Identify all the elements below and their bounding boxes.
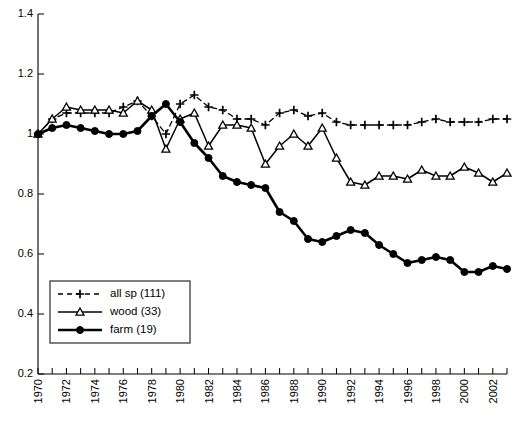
- data-point-marker-plus: [446, 118, 454, 126]
- data-point-marker-plus: [389, 121, 397, 129]
- data-point-marker-circle: [347, 227, 354, 234]
- x-tick-label: 1976: [117, 379, 129, 403]
- data-point-marker-circle: [148, 113, 155, 120]
- data-point-marker-plus: [489, 115, 497, 123]
- data-point-marker-plus: [460, 118, 468, 126]
- data-point-marker-circle: [205, 155, 212, 162]
- data-point-marker-triangle: [489, 178, 497, 185]
- chart-canvas: 0.20.40.60.811.21.4 19701972197419761978…: [0, 0, 514, 422]
- data-point-marker-triangle: [162, 145, 170, 152]
- y-tick-label: 0.4: [18, 307, 33, 319]
- data-point-marker-plus: [304, 112, 312, 120]
- y-tick-label: 0.8: [18, 187, 33, 199]
- x-tick-label: 1984: [231, 379, 243, 403]
- data-point-marker-plus: [432, 115, 440, 123]
- x-tick-label: 1982: [203, 379, 215, 403]
- data-point-marker-plus: [247, 115, 255, 123]
- data-point-marker-circle: [191, 140, 198, 147]
- data-point-marker-circle: [77, 125, 84, 132]
- data-point-marker-plus: [318, 109, 326, 117]
- x-tick-label: 1974: [89, 379, 101, 403]
- x-tick-label: 1972: [60, 379, 72, 403]
- data-point-marker-circle: [134, 128, 141, 135]
- data-point-marker-plus: [219, 106, 227, 114]
- y-tick-label: 1: [27, 127, 33, 139]
- data-point-marker-plus: [474, 118, 482, 126]
- data-point-marker-plus: [332, 118, 340, 126]
- data-point-marker-circle: [404, 260, 411, 267]
- data-point-marker-circle: [333, 233, 340, 240]
- chart-legend: all sp (111)wood (33)farm (19): [50, 281, 190, 343]
- data-point-marker-circle: [35, 131, 42, 138]
- data-point-marker-circle: [475, 269, 482, 276]
- data-point-marker-plus: [290, 106, 298, 114]
- y-tick-label: 1.4: [18, 7, 33, 19]
- data-point-marker-plus: [176, 100, 184, 108]
- x-tick-label: 2002: [487, 379, 499, 403]
- x-tick-label: 2000: [458, 379, 470, 403]
- x-tick-label: 1990: [316, 379, 328, 403]
- data-point-marker-circle: [162, 101, 169, 108]
- data-point-marker-triangle: [318, 124, 326, 131]
- data-point-marker-circle: [504, 266, 511, 273]
- data-point-marker-circle: [276, 209, 283, 216]
- data-point-marker-circle: [177, 119, 184, 126]
- x-tick-label: 1986: [259, 379, 271, 403]
- data-point-marker-circle: [63, 122, 70, 129]
- legend-label: farm (19): [110, 323, 157, 335]
- data-point-marker-circle: [219, 173, 226, 180]
- data-point-marker-circle: [376, 242, 383, 249]
- x-axis-tick-marks: [38, 368, 507, 374]
- y-tick-label: 1.2: [18, 67, 33, 79]
- data-point-marker-plus: [403, 121, 411, 129]
- data-point-marker-triangle: [332, 154, 340, 161]
- data-point-marker-circle: [262, 185, 269, 192]
- data-point-marker-circle: [447, 257, 454, 264]
- data-point-marker-triangle: [460, 163, 468, 170]
- x-axis-tick-labels: 1970197219741976197819801982198419861988…: [32, 379, 499, 403]
- data-point-marker-triangle: [503, 169, 511, 176]
- y-tick-label: 0.2: [18, 367, 33, 379]
- data-point-marker-circle: [77, 327, 84, 334]
- legend-label: all sp (111): [110, 287, 165, 299]
- x-tick-label: 1988: [288, 379, 300, 403]
- x-tick-label: 1998: [430, 379, 442, 403]
- data-point-marker-circle: [91, 128, 98, 135]
- data-point-marker-circle: [319, 239, 326, 246]
- data-point-marker-circle: [432, 254, 439, 261]
- series-wood-33-: [34, 97, 511, 188]
- data-point-marker-circle: [489, 263, 496, 270]
- data-point-marker-triangle: [62, 103, 70, 110]
- y-tick-label: 0.6: [18, 247, 33, 259]
- x-tick-label: 1978: [146, 379, 158, 403]
- data-point-marker-plus: [418, 118, 426, 126]
- data-point-marker-plus: [375, 121, 383, 129]
- data-point-marker-plus: [503, 115, 511, 123]
- series-all-sp-111-: [34, 91, 511, 138]
- data-point-marker-circle: [106, 131, 113, 138]
- x-tick-label: 1980: [174, 379, 186, 403]
- data-point-marker-circle: [305, 236, 312, 243]
- series-line: [38, 104, 507, 272]
- data-point-marker-triangle: [190, 109, 198, 116]
- data-point-marker-circle: [290, 218, 297, 225]
- data-point-marker-circle: [49, 125, 56, 132]
- x-tick-label: 1994: [373, 379, 385, 403]
- data-point-marker-circle: [390, 251, 397, 258]
- data-point-marker-triangle: [290, 130, 298, 137]
- legend-label: wood (33): [109, 305, 161, 317]
- x-tick-label: 1996: [402, 379, 414, 403]
- data-point-marker-circle: [418, 257, 425, 264]
- data-point-marker-circle: [120, 131, 127, 138]
- x-tick-label: 1970: [32, 379, 44, 403]
- data-point-marker-circle: [248, 182, 255, 189]
- x-tick-label: 1992: [345, 379, 357, 403]
- data-point-marker-triangle: [418, 166, 426, 173]
- data-point-marker-circle: [361, 230, 368, 237]
- data-point-marker-triangle: [347, 178, 355, 185]
- data-point-marker-circle: [461, 269, 468, 276]
- data-point-marker-plus: [261, 121, 269, 129]
- data-series-layer: [34, 91, 511, 276]
- data-point-marker-circle: [233, 179, 240, 186]
- data-point-marker-plus: [346, 121, 354, 129]
